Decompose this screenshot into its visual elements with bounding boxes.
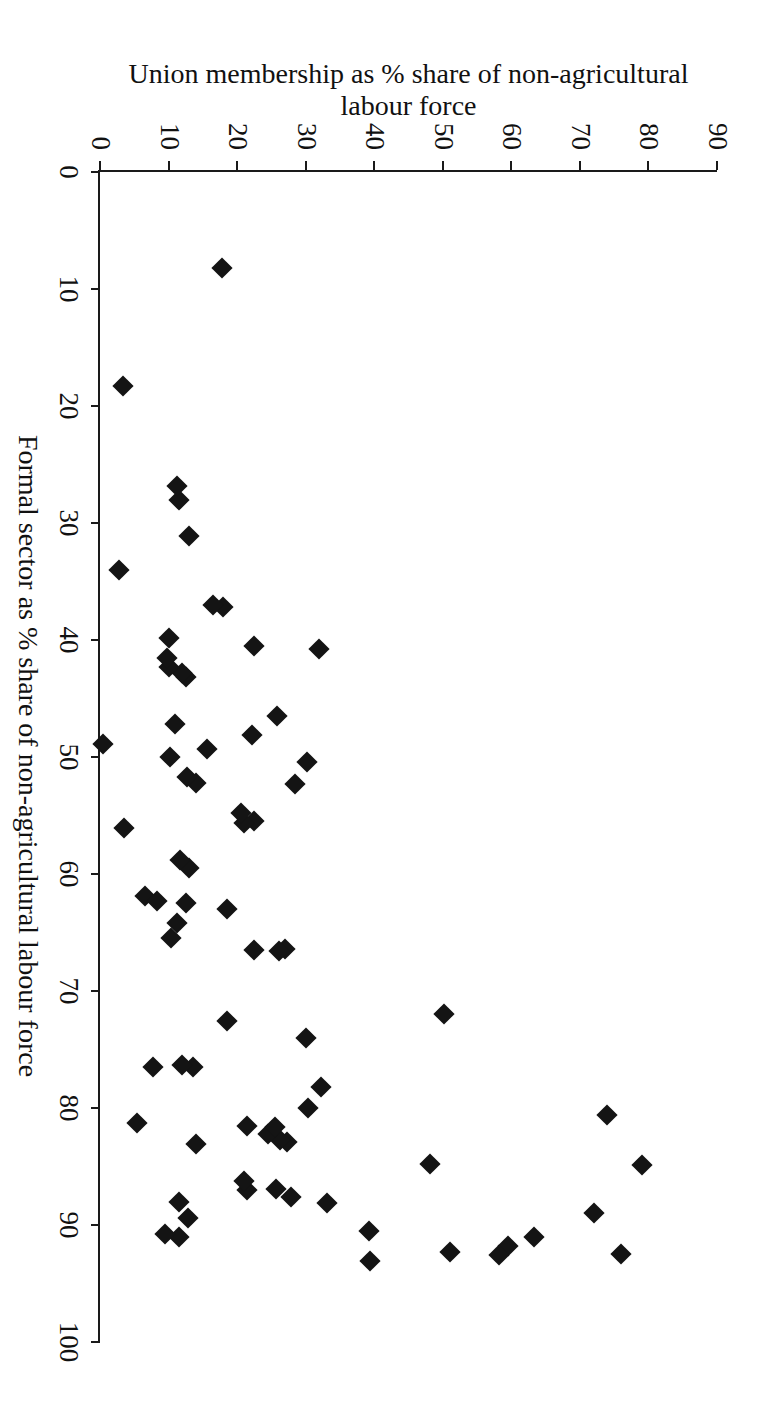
scatter-point (241, 724, 262, 745)
y-tick-mark (305, 161, 307, 170)
scatter-point (196, 738, 217, 759)
scatter-point (159, 746, 180, 767)
x-tick-mark (91, 990, 100, 992)
x-tick-mark (91, 1107, 100, 1109)
scatter-point (126, 1113, 147, 1134)
y-tick-mark (168, 161, 170, 170)
x-tick-mark (91, 288, 100, 290)
scatter-point (285, 773, 306, 794)
scatter-point (93, 734, 114, 755)
scatter-point (316, 1192, 337, 1213)
x-tick-mark (91, 756, 100, 758)
scatter-point (583, 1203, 604, 1224)
scatter-point (360, 1251, 381, 1272)
x-axis-title: Formal sector as % share of non-agricult… (12, 170, 44, 1342)
y-tick-mark (510, 161, 512, 170)
x-tick-label: 100 (55, 1322, 82, 1363)
scatter-point (142, 1056, 163, 1077)
x-tick-label: 90 (55, 1212, 82, 1239)
scatter-point (112, 376, 133, 397)
scatter-point (216, 898, 237, 919)
x-tick-label: 30 (55, 510, 82, 537)
y-tick-label: 30 (292, 123, 319, 150)
y-tick-mark (99, 161, 101, 170)
scatter-point (179, 525, 200, 546)
scatter-point (610, 1244, 631, 1265)
x-tick-label: 20 (55, 393, 82, 420)
x-tick-mark (91, 522, 100, 524)
scatter-point (309, 639, 330, 660)
y-tick-label: 10 (155, 123, 182, 150)
y-tick-label: 0 (87, 137, 114, 151)
y-tick-label: 80 (635, 123, 662, 150)
y-tick-mark (373, 161, 375, 170)
scatter-point (298, 1097, 319, 1118)
x-tick-label: 50 (55, 744, 82, 771)
scatter-point (158, 627, 179, 648)
rotated-plot-wrapper: 0102030405060708090100 01020304050607080… (0, 0, 770, 1408)
x-tick-mark (91, 1341, 100, 1343)
y-tick-mark (716, 161, 718, 170)
scatter-point (166, 475, 187, 496)
scatter-point (113, 818, 134, 839)
scatter-point (237, 1115, 258, 1136)
y-tick-label: 90 (704, 123, 731, 150)
scatter-point (108, 559, 129, 580)
scatter-point (597, 1104, 618, 1125)
x-tick-mark (91, 639, 100, 641)
scatter-point (296, 751, 317, 772)
y-tick-mark (236, 161, 238, 170)
scatter-point (185, 1134, 206, 1155)
scatter-point (311, 1076, 332, 1097)
scatter-point (266, 705, 287, 726)
x-tick-mark (91, 1224, 100, 1226)
y-axis-title: Union membership as % share of non-agric… (100, 58, 717, 122)
scatter-point (434, 1004, 455, 1025)
x-tick-label: 60 (55, 861, 82, 888)
y-tick-mark (647, 161, 649, 170)
scatter-point (523, 1226, 544, 1247)
y-tick-label: 40 (361, 123, 388, 150)
scatter-point (419, 1154, 440, 1175)
plot-data-area (100, 172, 717, 1342)
y-tick-mark (579, 161, 581, 170)
x-tick-label: 0 (55, 165, 82, 179)
x-tick-label: 40 (55, 627, 82, 654)
scatter-point (176, 893, 197, 914)
x-tick-mark (91, 171, 100, 173)
x-tick-mark (91, 873, 100, 875)
x-tick-label: 80 (55, 1095, 82, 1122)
scatter-point (631, 1155, 652, 1176)
scatter-point (216, 1011, 237, 1032)
scatter-point (439, 1241, 460, 1262)
x-tick-label: 10 (55, 276, 82, 303)
scatter-point (211, 257, 232, 278)
scatter-point (165, 714, 186, 735)
y-tick-label: 70 (566, 123, 593, 150)
scatter-point (243, 939, 264, 960)
y-tick-mark (442, 161, 444, 170)
scatter-point (358, 1220, 379, 1241)
scatter-point (295, 1027, 316, 1048)
scatter-plot: 0102030405060708090100 01020304050607080… (0, 0, 770, 1408)
x-tick-mark (91, 405, 100, 407)
x-tick-label: 70 (55, 978, 82, 1005)
y-tick-label: 60 (498, 123, 525, 150)
y-tick-label: 20 (224, 123, 251, 150)
scatter-point (243, 635, 264, 656)
y-tick-label: 50 (429, 123, 456, 150)
figure-page: 0102030405060708090100 01020304050607080… (0, 0, 770, 1408)
